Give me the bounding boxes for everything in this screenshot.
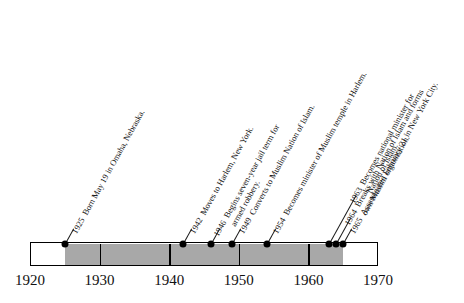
timeline-figure: 1925 Born May 19 in Omaha, Nebraska.1942…	[0, 0, 464, 303]
event-dot-1925	[61, 240, 68, 247]
event-text-1964: Breaks with Nation of Islam and forms	[350, 88, 425, 213]
event-dot-1949	[228, 240, 235, 247]
timeline-divider-1960	[308, 244, 310, 265]
event-dot-1954	[263, 240, 270, 247]
event-text-1965: Assassinated February 21 in New York Cit…	[356, 80, 440, 221]
event-dot-1963	[326, 240, 333, 247]
timeline-divider-1940	[169, 244, 171, 265]
event-dot-1946	[207, 240, 214, 247]
timeline-divider-1950	[239, 244, 241, 265]
lifespan-shaded-region	[65, 244, 343, 265]
axis-tick-1920: 1920	[15, 272, 45, 289]
event-dot-1964	[333, 240, 340, 247]
axis-tick-1960: 1960	[293, 272, 323, 289]
event-dot-1942	[180, 240, 187, 247]
axis-tick-1940: 1940	[154, 272, 184, 289]
event-label-1965: 1965 Assassinated February 21 in New Yor…	[348, 80, 440, 236]
event-dot-1965	[340, 240, 347, 247]
axis-tick-1950: 1950	[224, 272, 254, 289]
event-label-1925: 1925 Born May 19 in Omaha, Nebraska.	[69, 107, 146, 235]
event-text-1925: Born May 19 in Omaha, Nebraska.	[77, 107, 146, 220]
axis-tick-1930: 1930	[85, 272, 115, 289]
timeline-divider-1930	[100, 244, 102, 265]
axis-tick-1970: 1970	[363, 272, 393, 289]
